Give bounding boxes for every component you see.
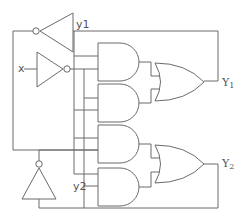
wire-bottom-inverter-in: [39, 199, 84, 208]
and-gate-4: [98, 168, 139, 206]
label-x: x: [18, 62, 25, 75]
or-gate-2: [155, 145, 204, 183]
label-y2: y2: [73, 180, 87, 193]
inverter-y1-feedback: [33, 13, 73, 52]
and-gate-2: [98, 84, 139, 122]
logic-circuit-diagram: x y1 y2 Y1 Y2: [0, 0, 243, 218]
label-Y2: Y2: [221, 157, 234, 171]
and-gate-1: [98, 43, 139, 81]
inverter-x: [37, 52, 70, 87]
and-gate-3: [98, 125, 139, 163]
inverter-y2-feedback: [22, 161, 56, 199]
wire-top-inverter-out: [13, 31, 98, 150]
label-y1: y1: [76, 18, 90, 31]
label-Y1: Y1: [221, 76, 234, 90]
or-gate-1: [155, 63, 204, 101]
